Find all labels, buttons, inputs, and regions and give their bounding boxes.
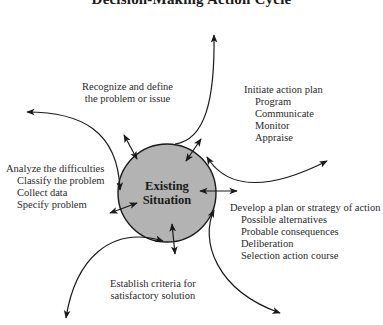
stage-recognize: Recognize and define the problem or issu… <box>82 81 173 105</box>
stage-develop-item: Selection action course <box>230 250 380 262</box>
stage-establish-line2: satisfactory solution <box>110 290 196 302</box>
stage-develop-item: Possible alternatives <box>230 214 380 226</box>
stage-establish: Establish criteria for satisfactory solu… <box>110 278 196 302</box>
stage-initiate: Initiate action plan Program Communicate… <box>244 84 323 144</box>
stage-analyze-item: Classify the problem <box>6 175 105 187</box>
stage-analyze: Analyze the difficulties Classify the pr… <box>6 163 105 211</box>
stage-develop: Develop a plan or strategy of action Pos… <box>230 202 380 262</box>
stage-recognize-line1: Recognize and define <box>82 81 173 93</box>
stage-analyze-item: Specify problem <box>6 199 105 211</box>
curve-arrow-right <box>207 157 327 182</box>
radial-arrow-upper-left <box>124 135 137 159</box>
center-label-line1: Existing <box>117 179 217 193</box>
curve-arrow-top <box>175 35 214 144</box>
stage-establish-line1: Establish criteria for <box>110 278 196 290</box>
existing-situation-label: Existing Situation <box>117 179 217 207</box>
stage-initiate-item: Appraise <box>244 132 323 144</box>
stage-develop-item: Probable consequences <box>230 226 380 238</box>
stage-analyze-item: Collect data <box>6 187 105 199</box>
stage-analyze-heading: Analyze the difficulties <box>6 163 105 175</box>
stage-initiate-item: Program <box>244 96 323 108</box>
stage-initiate-item: Monitor <box>244 120 323 132</box>
center-label-line2: Situation <box>117 193 217 207</box>
stage-initiate-item: Communicate <box>244 108 323 120</box>
stage-initiate-heading: Initiate action plan <box>244 84 323 96</box>
stage-develop-heading: Develop a plan or strategy of action <box>230 202 380 214</box>
stage-recognize-line2: the problem or issue <box>82 93 173 105</box>
stage-develop-item: Deliberation <box>230 238 380 250</box>
